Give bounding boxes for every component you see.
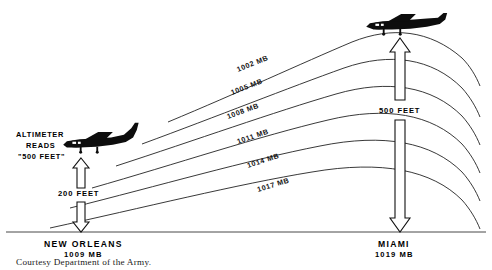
isobar-label-group: 1002 MB 1005 MB 1008 MB 1011 MB 1014 MB … [226,53,291,194]
new-orleans-measure-label: 200 FEET [58,189,99,198]
miami-down-arrow [390,120,410,232]
altimeter-error-figure: 1002 MB 1005 MB 1008 MB 1011 MB 1014 MB … [0,0,492,270]
callout-line-reads: READS [26,141,55,150]
credit-line: Courtesy Department of the Army. [16,257,151,267]
miami-pressure: 1019 MB [375,250,414,259]
isobar-label-1002: 1002 MB [235,53,269,74]
isobar-label-1011: 1011 MB [236,127,270,146]
callout-line-altimeter: ALTIMETER [16,130,64,139]
isobar-label-1005: 1005 MB [229,77,263,97]
callout-line-500-feet: "500 FEET" [18,152,65,161]
isobar-curve-1008 [116,86,480,166]
new-orleans-up-arrow [73,158,89,188]
isobar-label-1017: 1017 MB [256,176,291,194]
new-orleans-city-name: NEW ORLEANS [44,239,123,249]
isobar-curve-1002 [168,33,480,122]
isobar-label-1008: 1008 MB [226,101,260,121]
new-orleans-callout: ALTIMETER READS "500 FEET" [16,130,65,161]
miami-city-name: MIAMI [378,239,410,249]
isobar-curve-1017 [50,167,480,229]
miami-up-arrow [390,38,410,100]
isobar-label-1014: 1014 MB [246,151,281,170]
miami-measure-label: 500 FEET [379,106,420,115]
miami-airplane-icon [366,13,447,36]
new-orleans-airplane-icon [63,123,138,154]
